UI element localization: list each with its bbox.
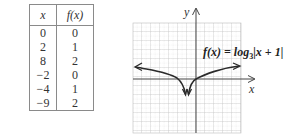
function-label: f(x) = log3|x + 1| [203,45,283,61]
grid [133,23,241,133]
x-axis-label: x [248,82,255,96]
y-axis-label: y [183,5,190,19]
function-graph: x y f(x) = log3|x + 1| [0,0,299,137]
